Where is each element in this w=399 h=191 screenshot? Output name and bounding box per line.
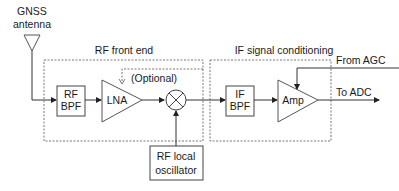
antenna-label-line2: antenna (13, 18, 51, 30)
block-diagram: GNSS antenna RF front end RF BPF LNA (Op… (0, 0, 399, 191)
antenna-label-line1: GNSS (17, 5, 47, 17)
mixer-icon (166, 90, 186, 110)
antenna-feed-line (32, 51, 56, 100)
lo-label-line2: oscillator (155, 164, 197, 176)
rf-front-end-label: RF front end (95, 44, 154, 56)
if-bpf-label-line2: BPF (230, 100, 250, 112)
rf-bpf-block: RF BPF (57, 86, 85, 116)
rf-local-oscillator-block: RF local oscillator (150, 146, 203, 180)
to-adc-label: To ADC (336, 86, 372, 98)
antenna-icon (24, 35, 40, 51)
rf-bpf-label-line2: BPF (61, 100, 81, 112)
if-bpf-block: IF BPF (226, 86, 254, 116)
if-bpf-label-line1: IF (235, 88, 244, 100)
lna-block: LNA (102, 80, 142, 122)
rf-bpf-label-line1: RF (64, 88, 78, 100)
if-conditioning-label: IF signal conditioning (235, 44, 334, 56)
from-agc-label: From AGC (336, 54, 386, 66)
optional-label: (Optional) (131, 72, 177, 84)
lna-label: LNA (107, 94, 127, 106)
antenna: GNSS antenna (13, 5, 56, 100)
lo-label-line1: RF local (157, 150, 196, 162)
amp-block: Amp (278, 80, 318, 122)
amp-label: Amp (282, 94, 304, 106)
